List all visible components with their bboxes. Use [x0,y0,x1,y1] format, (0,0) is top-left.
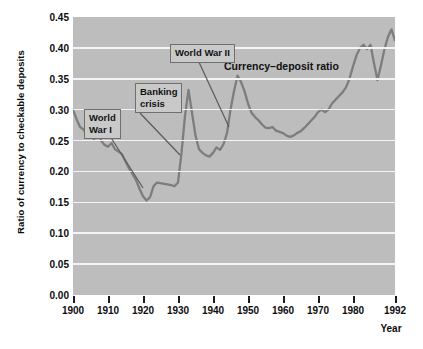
x-tick-mark [353,296,355,303]
y-tick-label: 0.15 [33,197,69,208]
gridline [73,263,395,265]
y-tick-label: 0.25 [33,135,69,146]
x-tick-mark [108,296,110,303]
x-tick-label: 1992 [373,305,417,316]
x-tick-mark [213,296,215,303]
annotation-world-war-i: World War I [84,109,121,139]
gridline [73,78,395,80]
x-tick-mark [283,296,285,303]
series-inline-label: Currency–deposit ratio [224,60,339,72]
gridline [73,140,395,142]
gridline [73,109,395,111]
y-tick-label: 0.45 [33,12,69,23]
x-tick-mark [248,296,250,303]
y-axis-title-container: Ratio of currency to checkable deposits [0,0,34,300]
x-tick-mark [73,296,75,303]
x-axis-title: Year [366,323,416,334]
gridline [73,232,395,234]
y-tick-label: 0.00 [33,290,69,301]
gridline [73,171,395,173]
x-tick-mark [318,296,320,303]
x-tick-mark [143,296,145,303]
chart-figure: Ratio of currency to checkable deposits … [0,0,423,349]
y-tick-label: 0.35 [33,73,69,84]
y-axis-tick-labels: 0.000.050.100.150.200.250.300.350.400.45 [31,0,69,349]
y-tick-label: 0.05 [33,259,69,270]
x-tick-label: 1980 [331,305,375,316]
x-tick-mark [395,296,397,303]
y-tick-label: 0.30 [33,104,69,115]
y-tick-label: 0.40 [33,42,69,53]
annotation-banking-crisis: Banking crisis [135,83,182,113]
y-tick-label: 0.10 [33,228,69,239]
gridline [73,202,395,204]
y-tick-label: 0.20 [33,166,69,177]
annotation-world-war-ii: World War II [170,44,235,63]
y-axis-title: Ratio of currency to checkable deposits [15,17,27,267]
x-tick-mark [178,296,180,303]
